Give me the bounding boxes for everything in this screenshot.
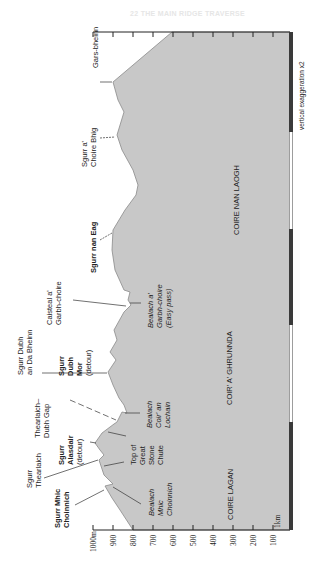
gap-label-thearlaich-dubh: Thearlaich– Dubh Gap (33, 397, 51, 438)
coire-label: COIRE NAN LAOGH (232, 165, 241, 235)
peak-label-sgurr-alasdair: Sgurr Alasdair (detour) (57, 433, 84, 465)
axis-tick-labels: 1000m 900 800 700 600 500 400 300 200 10… (89, 531, 278, 552)
tick-label: 200 (249, 535, 258, 547)
tick-label: 300 (229, 535, 238, 547)
tick-label: 700 (149, 535, 158, 547)
tick-label: 900 (109, 535, 118, 547)
peak-label-caisteal-a-garbh-choire: Caisteal a' Garbh-choire (45, 281, 63, 325)
peak-label-sgurr-nan-eag: Sgurr nan Eag (89, 221, 98, 273)
peak-label-sgurr-a-choire-bhig: Sgurr a' Choire Bhig (80, 128, 98, 167)
coire-label: COIRE LAGAN (226, 469, 235, 520)
peak-label-sgurr-dubh-mor: Sgurr Dubh Mor (detour) (57, 349, 93, 376)
tick-label: 400 (209, 535, 218, 547)
peak-label-gars-bheinn: Gars-bheinn (91, 27, 100, 68)
peak-label-sgurr-mhic-choinnich: Sgurr Mhic Choinnich (53, 487, 71, 528)
peak-label-sgurr-dubh-an-da-bheinn: Sgurr Dubh an Da Bheinn (16, 330, 34, 375)
tick-label: 100 (269, 535, 278, 547)
distance-scale-bar (289, 32, 293, 530)
ridge-profile-diagram: 1000m 900 800 700 600 500 400 300 200 10… (0, 0, 313, 587)
vertical-exaggeration-note: vertical exaggeration x2 (298, 61, 306, 130)
tick-label: 800 (129, 535, 138, 547)
tick-label: 500 (189, 535, 198, 547)
pass-label-bealach-coir-an-lochain: Bealach Coir' an Lochain (145, 399, 172, 428)
scale-1km-label: 1km (273, 515, 282, 529)
ridge-profile-shape (95, 32, 290, 530)
tick-label: 1000m (89, 531, 98, 552)
label-top-of-great-stone-chute: Top of Great Stone Chute (129, 442, 165, 465)
coire-label: COIR' A' GHRUNNDA (225, 331, 234, 405)
peak-label-sgurr-thearlaich: Sgurr Thearlaich (25, 453, 43, 488)
tick-label: 600 (169, 535, 178, 547)
